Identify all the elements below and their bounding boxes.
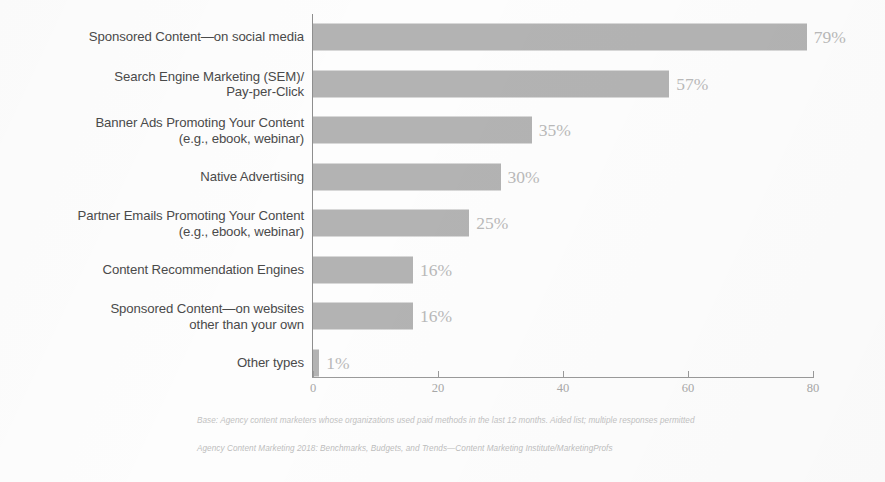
x-tick-mark [813, 371, 814, 378]
x-tick-mark [438, 371, 439, 378]
bar-group: 57% [313, 70, 708, 97]
category-label: Native Advertising [8, 169, 304, 184]
bar-value-label: 35% [539, 122, 571, 140]
bar [313, 256, 413, 283]
bar-value-label: 16% [420, 261, 452, 279]
x-tick-label: 80 [807, 381, 820, 396]
bar-row: Partner Emails Promoting Your Content (e… [0, 200, 885, 247]
bar-value-label: 57% [676, 75, 708, 93]
category-label: Other types [8, 355, 304, 370]
bar-group: 16% [313, 256, 452, 283]
y-axis-line [312, 14, 313, 378]
x-tick-label: 0 [310, 381, 316, 396]
category-label: Search Engine Marketing (SEM)/ Pay-per-C… [8, 68, 304, 99]
bar-value-label: 30% [508, 168, 540, 186]
x-tick-mark [688, 371, 689, 378]
x-tick-label: 40 [557, 381, 570, 396]
bar-group: 35% [313, 117, 571, 144]
category-label: Sponsored Content—on social media [8, 30, 304, 45]
bar-value-label: 79% [814, 29, 846, 47]
bar-row: Sponsored Content—on websites other than… [0, 293, 885, 340]
bar [313, 70, 669, 97]
footnote-base: Base: Agency content marketers whose org… [197, 416, 695, 426]
plot-area: Sponsored Content—on social media79%Sear… [0, 14, 885, 386]
bar-row: Native Advertising30% [0, 154, 885, 201]
bar-row: Content Recommendation Engines16% [0, 247, 885, 294]
bar [313, 24, 807, 51]
category-label: Content Recommendation Engines [8, 262, 304, 277]
x-tick-mark [313, 371, 314, 378]
bar [313, 163, 501, 190]
x-tick-label: 20 [432, 381, 445, 396]
bar-value-label: 25% [476, 215, 508, 233]
x-tick-label: 60 [682, 381, 695, 396]
bar [313, 117, 532, 144]
bar [313, 210, 469, 237]
category-label: Sponsored Content—on websites other than… [8, 301, 304, 332]
footnote-source: Agency Content Marketing 2018: Benchmark… [197, 444, 613, 454]
x-tick-mark [563, 371, 564, 378]
bar-chart-figure: Sponsored Content—on social media79%Sear… [0, 0, 885, 482]
x-axis-ticks: 020406080 [0, 371, 885, 397]
bar-group: 25% [313, 210, 508, 237]
bar-row: Banner Ads Promoting Your Content (e.g.,… [0, 107, 885, 154]
bar-value-label: 16% [420, 308, 452, 326]
category-label: Partner Emails Promoting Your Content (e… [8, 208, 304, 239]
bar-group: 16% [313, 303, 452, 330]
bar-row: Search Engine Marketing (SEM)/ Pay-per-C… [0, 61, 885, 108]
bar-row: Sponsored Content—on social media79% [0, 14, 885, 61]
bar [313, 303, 413, 330]
bar-group: 30% [313, 163, 540, 190]
bar-group: 79% [313, 24, 846, 51]
category-label: Banner Ads Promoting Your Content (e.g.,… [8, 115, 304, 146]
bar-value-label: 1% [326, 354, 349, 372]
